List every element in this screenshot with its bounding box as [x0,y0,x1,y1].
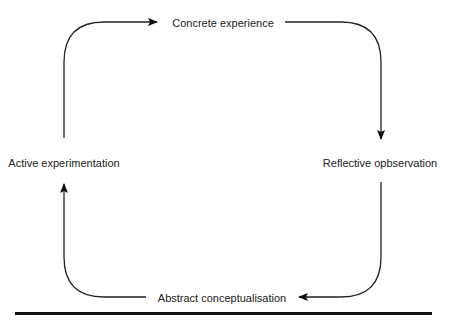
node-active-experimentation: Active experimentation [8,156,119,170]
arrow-left-to-top [64,22,157,138]
node-abstract-conceptualisation: Abstract conceptualisation [158,291,286,305]
bottom-rule-divider [15,312,432,315]
arrow-bottom-to-left [64,184,146,297]
node-concrete-experience: Concrete experience [172,16,274,30]
arrow-right-to-bottom [299,182,381,297]
arrow-top-to-right [285,22,381,139]
node-reflective-observation: Reflective opbservation [323,156,437,170]
